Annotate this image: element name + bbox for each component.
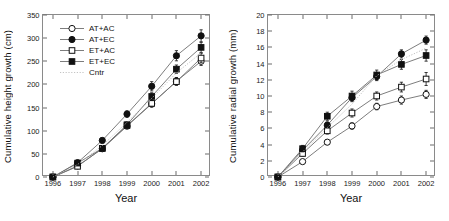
marker-open-square xyxy=(423,76,429,82)
legend-item-et-ec: ET+EC xyxy=(59,56,115,67)
x-tick-mark xyxy=(302,15,303,19)
y-tick-mark xyxy=(268,112,272,113)
panel-cumulative-radial-growth: Cumulative radial growth (mm) 0246810121… xyxy=(225,0,449,221)
marker-open-circle xyxy=(324,139,330,145)
y-tick-mark xyxy=(43,38,47,39)
marker-filled-circle xyxy=(398,51,404,57)
marker-filled-square xyxy=(99,146,105,152)
marker-filled-circle xyxy=(423,37,429,43)
legend-key-dotted-line-icon xyxy=(59,67,85,78)
y-tick-mark xyxy=(430,15,434,16)
y-tick-label: 14 xyxy=(256,59,268,68)
x-tick-mark xyxy=(352,15,353,19)
x-tick-mark xyxy=(201,171,202,175)
x-tick-label: 1999 xyxy=(344,175,361,188)
x-tick-label: 1999 xyxy=(119,175,136,188)
x-tick-label: 2000 xyxy=(143,175,160,188)
x-tick-mark xyxy=(52,15,53,19)
marker-open-circle xyxy=(423,91,429,97)
marker-open-square xyxy=(174,79,180,85)
x-tick-label: 2002 xyxy=(418,175,435,188)
marker-open-square xyxy=(374,93,380,99)
y-tick-mark xyxy=(205,130,209,131)
legend-label: AT+EC xyxy=(89,36,114,44)
plot-area-right: 0246810121416182019961997199819992000200… xyxy=(267,14,435,176)
marker-open-square xyxy=(69,48,75,54)
y-tick-mark xyxy=(430,160,434,161)
y-tick-mark xyxy=(430,112,434,113)
marker-open-square xyxy=(324,128,330,134)
y-tick-mark xyxy=(205,153,209,154)
y-tick-mark xyxy=(43,61,47,62)
y-tick-label: 4 xyxy=(260,140,268,149)
x-tick-mark xyxy=(426,15,427,19)
marker-open-square xyxy=(399,84,405,90)
y-tick-label: 6 xyxy=(260,124,268,133)
y-tick-label: 16 xyxy=(256,43,268,52)
marker-filled-circle xyxy=(124,111,130,117)
x-tick-mark xyxy=(201,15,202,19)
marker-filled-circle xyxy=(69,36,75,42)
legend-item-at-ec: AT+EC xyxy=(59,34,115,45)
x-tick-label: 1997 xyxy=(294,175,311,188)
marker-filled-circle xyxy=(198,33,204,39)
x-tick-label: 1998 xyxy=(319,175,336,188)
y-tick-label: 0 xyxy=(260,173,268,182)
legend-item-et-ac: ET+AC xyxy=(59,45,115,56)
x-tick-mark xyxy=(277,15,278,19)
marker-filled-circle xyxy=(99,137,105,143)
x-tick-mark xyxy=(327,15,328,19)
x-tick-mark xyxy=(127,171,128,175)
marker-filled-square xyxy=(423,53,429,59)
y-tick-label: 100 xyxy=(27,126,43,135)
marker-filled-square xyxy=(69,59,75,65)
y-tick-mark xyxy=(430,31,434,32)
marker-open-circle xyxy=(374,103,380,109)
y-tick-label: 250 xyxy=(27,57,43,66)
y-tick-mark xyxy=(43,130,47,131)
y-tick-label: 150 xyxy=(27,103,43,112)
x-tick-label: 1996 xyxy=(45,175,62,188)
x-tick-label: 2002 xyxy=(193,175,210,188)
y-axis-label-left: Cumulative height growth (cm) xyxy=(2,8,13,184)
marker-filled-square xyxy=(349,93,355,99)
y-tick-mark xyxy=(205,107,209,108)
x-tick-mark xyxy=(352,171,353,175)
legend-label: Cntr xyxy=(89,69,104,77)
y-tick-label: 10 xyxy=(256,92,268,101)
legend-label: AT+AC xyxy=(89,25,114,33)
y-tick-mark xyxy=(268,160,272,161)
series-layer-right xyxy=(268,15,436,177)
x-axis-label-right: Year xyxy=(267,192,435,204)
y-tick-label: 200 xyxy=(27,80,43,89)
legend-label: ET+EC xyxy=(89,58,115,66)
y-tick-mark xyxy=(205,61,209,62)
x-tick-mark xyxy=(376,15,377,19)
panel-cumulative-height-growth: Cumulative height growth (cm) AT+ACAT+EC… xyxy=(0,0,224,221)
legend-key-filled-square-icon xyxy=(59,56,85,67)
marker-open-square xyxy=(198,55,204,61)
marker-open-circle xyxy=(349,123,355,129)
x-tick-mark xyxy=(77,171,78,175)
x-tick-label: 1997 xyxy=(69,175,86,188)
y-tick-mark xyxy=(43,84,47,85)
y-tick-label: 300 xyxy=(27,34,43,43)
y-tick-mark xyxy=(430,96,434,97)
y-axis-label-right: Cumulative radial growth (mm) xyxy=(227,8,238,184)
x-tick-mark xyxy=(426,171,427,175)
y-tick-label: 20 xyxy=(256,11,268,20)
x-tick-mark xyxy=(102,15,103,19)
y-tick-label: 0 xyxy=(35,173,43,182)
y-tick-mark xyxy=(268,96,272,97)
y-tick-label: 12 xyxy=(256,75,268,84)
x-tick-mark xyxy=(401,171,402,175)
x-tick-label: 2000 xyxy=(368,175,385,188)
x-tick-mark xyxy=(176,171,177,175)
marker-open-circle xyxy=(69,25,75,31)
y-tick-label: 8 xyxy=(260,108,268,117)
y-tick-mark xyxy=(268,79,272,80)
x-tick-mark xyxy=(52,171,53,175)
x-tick-mark xyxy=(327,171,328,175)
marker-open-circle xyxy=(398,97,404,103)
legend-key-open-square-icon xyxy=(59,45,85,56)
